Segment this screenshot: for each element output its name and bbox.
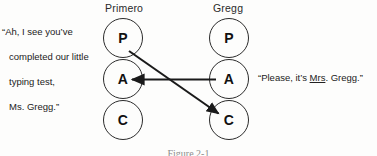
figure-label: Figure 2-1 (0, 148, 377, 156)
column-header-gregg: Gregg (213, 2, 243, 14)
ego-state-circle-primero-adult: A (103, 59, 143, 99)
ego-state-label-gregg-adult: A (210, 60, 248, 98)
caption-primero-line-1: “Ah, I see you’ve (2, 26, 100, 38)
caption-primero-line-3: typing test, (2, 76, 100, 88)
caption-primero-line-2: completed our little (2, 51, 100, 63)
ego-state-circle-gregg-adult: A (209, 59, 249, 99)
ego-state-circle-primero-child: C (103, 100, 143, 140)
ego-state-circle-primero-parent: P (103, 18, 143, 58)
ego-state-label-primero-adult: A (104, 60, 142, 98)
ego-state-circle-gregg-parent: P (209, 18, 249, 58)
ego-state-circle-gregg-child: C (209, 100, 249, 140)
ego-state-label-primero-child: C (104, 101, 142, 139)
ego-state-label-gregg-parent: P (210, 19, 248, 57)
column-header-primero: Primero (105, 2, 143, 14)
caption-gregg-text-before: “Please, it’s (258, 72, 310, 83)
ego-state-label-gregg-child: C (210, 101, 248, 139)
caption-gregg-text-underlined: Mrs (310, 72, 326, 83)
caption-primero-line-4: Ms. Gregg.” (2, 101, 100, 113)
figure-canvas: Primero Gregg P A C P A C “Ah, (0, 0, 377, 156)
ego-state-label-primero-parent: P (104, 19, 142, 57)
caption-gregg-text-after: . Gregg.” (325, 72, 363, 83)
caption-primero: “Ah, I see you’ve completed our little t… (2, 14, 100, 126)
caption-gregg: “Please, it’s Mrs. Gregg.” (258, 72, 376, 84)
